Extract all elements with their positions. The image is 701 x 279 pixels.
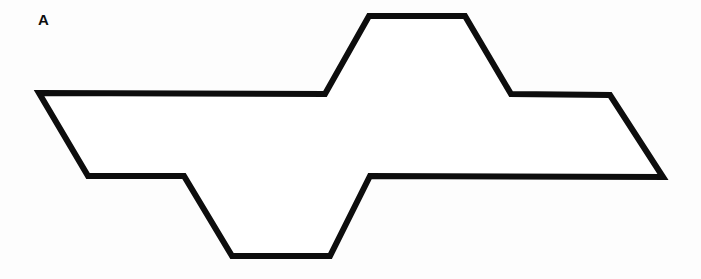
outline-polygon-svg (0, 0, 701, 279)
figure-panel: A (0, 0, 701, 279)
panel-label: A (38, 12, 49, 27)
